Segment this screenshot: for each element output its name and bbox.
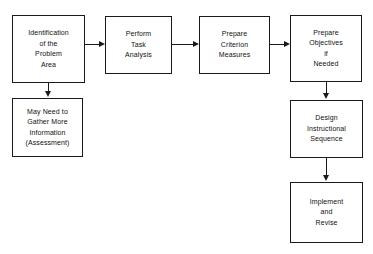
node-perform-task-analysis-label: Perform Task Analysis — [123, 29, 154, 61]
edge-identification-to-perform-task — [85, 44, 100, 45]
arrowhead-design-sequence-to-implement-revise — [323, 175, 329, 181]
node-prepare-criterion-measures-label: Prepare Criterion Measures — [217, 29, 253, 61]
node-may-need-gather: May Need to Gather More Information (Ass… — [12, 98, 83, 157]
edge-perform-task-to-prepare-criterion — [172, 44, 194, 45]
edge-design-sequence-to-implement-revise — [326, 158, 327, 176]
arrowhead-identification-to-may-need — [45, 91, 51, 97]
arrowhead-perform-task-to-prepare-criterion — [193, 41, 199, 47]
node-may-need-gather-label: May Need to Gather More Information (Ass… — [24, 107, 72, 149]
node-prepare-objectives-label: Prepare Objectives if Needed — [307, 28, 345, 70]
arrowhead-identification-to-perform-task — [99, 41, 105, 47]
node-identification-label: Identification of the Problem Area — [26, 28, 71, 70]
flowchart-canvas: Identification of the Problem Area May N… — [0, 0, 373, 254]
node-prepare-criterion-measures: Prepare Criterion Measures — [199, 16, 270, 74]
arrowhead-prepare-objectives-to-design-sequence — [323, 93, 329, 99]
node-design-instructional-sequence-label: Design Instructional Sequence — [305, 113, 348, 145]
node-design-instructional-sequence: Design Instructional Sequence — [290, 100, 363, 158]
edge-prepare-criterion-to-prepare-objectives — [270, 44, 285, 45]
node-perform-task-analysis: Perform Task Analysis — [105, 16, 172, 74]
node-implement-and-revise: Implement and Revise — [290, 182, 363, 243]
node-identification: Identification of the Problem Area — [12, 15, 85, 83]
arrowhead-prepare-criterion-to-prepare-objectives — [284, 41, 290, 47]
node-implement-and-revise-label: Implement and Revise — [308, 197, 346, 229]
node-prepare-objectives: Prepare Objectives if Needed — [290, 15, 362, 82]
